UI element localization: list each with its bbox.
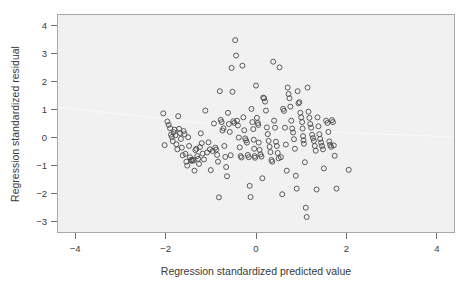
y-axis-title: Regression standardized residual xyxy=(9,46,21,202)
x-tick-label: −2 xyxy=(160,243,171,254)
y-tick-label: 4 xyxy=(42,20,47,31)
y-tick-label: 2 xyxy=(42,76,47,87)
y-tick-label: 3 xyxy=(42,48,47,59)
y-tick-label: −3 xyxy=(36,216,47,227)
regression-residual-scatter-chart: −4−2024 −3−2−101234 Regression standardi… xyxy=(0,0,471,284)
x-axis-title: Regression standardized predicted value xyxy=(161,265,351,277)
y-tick-label: −2 xyxy=(36,188,47,199)
y-tick-label: 0 xyxy=(42,132,47,143)
y-tick-label: −1 xyxy=(36,160,47,171)
scatter-plot-figure: −4−2024 −3−2−101234 Regression standardi… xyxy=(0,0,471,284)
x-tick-label: 4 xyxy=(434,243,439,254)
x-tick-label: 0 xyxy=(253,243,258,254)
y-tick-label: 1 xyxy=(42,104,47,115)
x-tick-label: 2 xyxy=(344,243,349,254)
x-tick-label: −4 xyxy=(70,243,81,254)
